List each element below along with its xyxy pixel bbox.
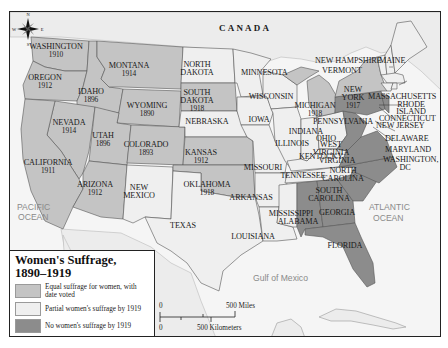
year-montana: 1914 [122,69,137,78]
legend-label-equal: Equal suffrage for women, with date vote… [45,283,149,299]
year-california: 1911 [41,166,56,175]
label-pacific-2: OCEAN [18,212,49,222]
label-missouri: MISSOURI [244,163,283,172]
label-alabama: ALABAMA [278,217,319,226]
label-dc-2: DC [399,163,411,172]
label-vermont: VERMONT [322,66,362,75]
scale-bar: 0 500 Miles 0 500 Kilometers [158,302,268,336]
label-atlantic-2: OCEAN [373,213,404,223]
label-nebraska: NEBRASKA [185,117,229,126]
legend-item-partial: Partial women's suffrage by 1919 [15,302,149,316]
scale-km-label: 500 Kilometers [197,324,242,332]
label-arkansas: ARKANSAS [229,193,273,202]
label-new-mexico-2: MEXICO [123,191,155,200]
scale-zero-km: 0 [159,324,163,332]
compass-e: E [41,27,44,32]
label-georgia: GEORGIA [319,208,355,217]
swatch-none [15,319,41,333]
legend-subtitle: 1890–1919 [15,267,149,280]
swatch-equal [15,284,41,298]
label-gulf-of-mexico: Gulf of Mexico [253,273,308,283]
legend: Women's Suffrage, 1890–1919 Equal suffra… [9,250,155,337]
year-washington: 1910 [49,50,64,59]
label-texas: TEXAS [170,221,196,230]
label-maine: MAINE [379,56,405,65]
label-maryland: MARYLAND [385,145,431,154]
year-south-dakota: 1918 [190,104,205,113]
legend-label-partial: Partial women's suffrage by 1919 [45,305,141,313]
year-oklahoma: 1918 [200,188,215,197]
year-arizona: 1912 [88,188,103,197]
label-atlantic-1: ATLANTIC [369,202,410,212]
swatch-partial [15,302,41,316]
label-virginia: VIRGINIA [319,156,356,165]
legend-item-none: No women's suffrage by 1919 [15,319,149,333]
label-pacific-1: PACIFIC [17,202,50,212]
label-louisiana: LOUISIANA [231,232,275,241]
legend-label-none: No women's suffrage by 1919 [45,322,131,330]
label-canada: CANADA [219,23,271,33]
label-north-carolina-2: CAROLINA [322,174,364,183]
scale-zero-miles: 0 [159,302,163,310]
label-north-dakota-2: DAKOTA [180,68,213,77]
label-new-hampshire: NEW HAMPSHIRE [315,56,382,65]
label-pennsylvania: PENNSYLVANIA [313,117,373,126]
year-utah: 1896 [96,139,111,148]
year-nevada: 1914 [62,126,77,135]
year-wyoming: 1890 [140,109,155,118]
label-tennessee: TENNESSEE [280,171,325,180]
label-minnesota: MINNESOTA [241,68,288,77]
year-idaho: 1896 [84,95,99,104]
label-illinois: ILLINOIS [275,139,309,148]
year-kansas: 1912 [194,156,209,165]
year-oregon: 1912 [38,81,53,90]
label-south-carolina-2: CAROLINA [308,194,350,203]
label-dc-1: WASHINGTON, [383,155,438,164]
label-delaware: DELAWARE [385,134,429,143]
label-connecticut: CONNECTICUT [379,114,436,123]
label-wisconsin: WISCONSIN [249,92,294,101]
year-colorado: 1893 [139,148,154,157]
label-florida: FLORIDA [328,241,363,250]
label-iowa: IOWA [249,115,270,124]
scale-miles-label: 500 Miles [226,302,255,310]
legend-item-equal: Equal suffrage for women, with date vote… [15,283,149,299]
year-new-york: 1917 [346,101,361,110]
